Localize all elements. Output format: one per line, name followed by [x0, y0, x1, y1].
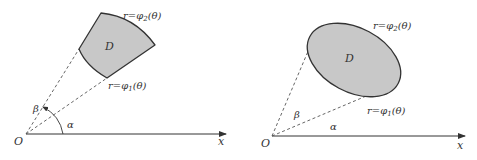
left-inner-curve-label: r=φ1(θ) [108, 80, 147, 93]
right-inner-curve-label: r=φ1(θ) [367, 105, 406, 118]
right-region-d [295, 8, 413, 111]
right-x-label: x [457, 139, 464, 152]
figure-svg: O x D α β r=φ2(θ) r=φ1(θ) O x D β α r=φ2… [0, 0, 477, 160]
right-beta-label: β [293, 109, 300, 120]
left-diagram: O x D α β r=φ2(θ) r=φ1(θ) [14, 10, 226, 148]
right-diagram: O x D β α r=φ2(θ) r=φ1(θ) [261, 8, 465, 152]
left-x-label: x [218, 135, 225, 148]
left-alpha-label: α [67, 119, 74, 130]
right-outer-curve-label: r=φ2(θ) [373, 20, 412, 33]
left-region-label: D [104, 40, 114, 53]
right-origin-label: O [261, 137, 270, 150]
right-ray-beta [272, 42, 312, 136]
right-alpha-label: α [330, 121, 337, 132]
polar-region-figure: O x D α β r=φ2(θ) r=φ1(θ) O x D β α r=φ2… [0, 0, 477, 160]
left-origin-label: O [14, 135, 23, 148]
left-beta-label: β [32, 103, 39, 114]
right-region-label: D [344, 52, 354, 65]
